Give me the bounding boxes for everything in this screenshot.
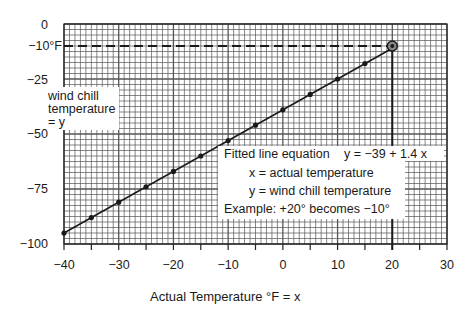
data-point xyxy=(362,61,367,66)
data-point xyxy=(226,138,231,143)
x-tick-label: 30 xyxy=(427,258,467,272)
x-tick-label: −20 xyxy=(153,258,193,272)
y-axis-label-line3: = y xyxy=(48,115,65,129)
data-point xyxy=(171,169,176,174)
equation-example: Example: +20° becomes −10° xyxy=(224,202,390,216)
x-tick-label: 10 xyxy=(318,258,358,272)
x-tick-label: −10 xyxy=(208,258,248,272)
data-point xyxy=(143,184,148,189)
y-axis-label-line1: wind chill xyxy=(48,89,99,103)
data-point xyxy=(89,215,94,220)
y-tick-label: −25 xyxy=(0,73,48,87)
y-tick-label: −75 xyxy=(0,182,48,196)
y-tick-label: −50 xyxy=(0,127,48,141)
data-point xyxy=(335,76,340,81)
equation-title: Fitted line equation xyxy=(224,147,330,161)
equation-formula: y = −39 + 1.4 x xyxy=(344,147,427,161)
x-tick-label: −30 xyxy=(99,258,139,272)
data-point xyxy=(61,230,66,235)
data-point xyxy=(253,123,258,128)
data-point xyxy=(308,92,313,97)
y-tick-label: 0 xyxy=(0,18,48,32)
y-tick-label: −10°F xyxy=(12,39,62,53)
x-axis-title: Actual Temperature °F = x xyxy=(150,290,301,304)
data-point xyxy=(198,153,203,158)
x-tick-label: 20 xyxy=(372,258,412,272)
data-point xyxy=(116,200,121,205)
axis-ticks xyxy=(64,244,447,250)
equation-x-definition: x = actual temperature xyxy=(249,166,374,180)
x-tick-label: 0 xyxy=(263,258,303,272)
x-tick-label: −40 xyxy=(44,258,84,272)
y-tick-label: −100 xyxy=(0,237,48,251)
data-point xyxy=(280,107,285,112)
y-axis-label-line2: temperature xyxy=(48,102,115,116)
equation-y-definition: y = wind chill temperature xyxy=(249,184,391,198)
